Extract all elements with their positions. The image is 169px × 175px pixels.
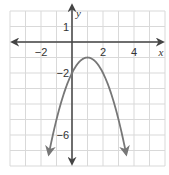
- tick-labels: −2241−2−6xy: [35, 7, 164, 141]
- y-tick-label: −2: [56, 67, 69, 79]
- graph: −2241−2−6xy: [0, 0, 169, 175]
- y-tick-label: 1: [63, 21, 69, 33]
- x-axis-label: x: [158, 46, 164, 58]
- x-tick-label: −2: [35, 46, 48, 58]
- y-tick-label: −6: [56, 129, 69, 141]
- y-axis-label: y: [75, 7, 81, 19]
- grid-lines: [10, 11, 165, 166]
- x-tick-label: 2: [100, 46, 106, 58]
- x-tick-label: 4: [131, 46, 137, 58]
